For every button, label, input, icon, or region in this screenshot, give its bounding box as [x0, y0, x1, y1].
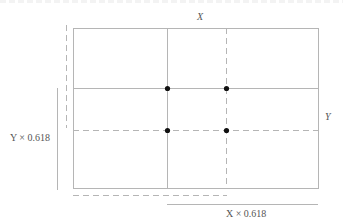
intersection-point — [165, 86, 170, 91]
height-ratio-label: Y × 0.618 — [10, 133, 50, 143]
outer-rectangle — [74, 29, 319, 189]
height-label: Y — [325, 112, 331, 122]
golden-ratio-diagram — [0, 0, 343, 221]
width-ratio-label: X × 0.618 — [226, 209, 266, 219]
width-label: X — [197, 12, 203, 22]
intersection-point — [224, 128, 229, 133]
intersection-point — [224, 86, 229, 91]
intersection-point — [165, 128, 170, 133]
